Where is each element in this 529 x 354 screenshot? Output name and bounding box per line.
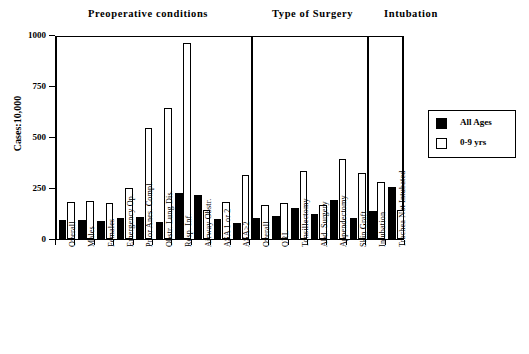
x-axis-tick-label: Abd. Surgery bbox=[320, 201, 329, 247]
x-axis-tick-label: Resp. Inf. bbox=[184, 213, 193, 247]
bar-all-ages bbox=[59, 220, 67, 239]
x-axis-tick-label: Females bbox=[107, 219, 116, 247]
legend-swatch-young-icon bbox=[436, 138, 447, 149]
x-axis-tick bbox=[55, 240, 56, 245]
bar-all-ages bbox=[291, 208, 299, 239]
y-axis-tick-label: 250 bbox=[14, 183, 46, 193]
x-axis-tick-label: Emergency Op. bbox=[126, 194, 135, 247]
x-axis-tick-label: ASA 1 or 2 bbox=[223, 208, 232, 247]
bar-all-ages bbox=[253, 218, 261, 239]
x-axis-tick-label: ASA>2 bbox=[242, 221, 251, 247]
bar-all-ages bbox=[330, 200, 338, 239]
bar-all-ages bbox=[78, 220, 86, 239]
bar-all-ages bbox=[233, 223, 241, 239]
x-axis-tick-label: Trachea Not Intubated bbox=[398, 170, 407, 247]
bar-all-ages bbox=[350, 218, 358, 239]
x-axis-tick-label: Males bbox=[87, 226, 96, 247]
section-header-surgery: Type of Surgery bbox=[272, 8, 353, 19]
bar-0-9-yrs bbox=[183, 43, 191, 239]
bar-all-ages bbox=[175, 193, 183, 240]
legend-label-all-ages: All Ages bbox=[460, 117, 492, 127]
bar-all-ages bbox=[388, 187, 396, 239]
x-axis-tick-label: Obstr. Lung Dis. bbox=[165, 190, 174, 247]
x-axis-tick-label: ORL bbox=[281, 230, 290, 247]
x-axis-tick-label: Overall bbox=[262, 221, 271, 247]
bar-all-ages bbox=[272, 216, 280, 239]
y-axis-tick-label: 0 bbox=[14, 234, 46, 244]
legend-swatch-all-ages-icon bbox=[436, 118, 447, 129]
section-header-preoperative: Preoperative conditions bbox=[88, 8, 208, 19]
legend-label-young: 0-9 yrs bbox=[460, 137, 486, 147]
x-axis-tick-label: Overall bbox=[68, 221, 77, 247]
bar-all-ages bbox=[214, 219, 222, 239]
bar-all-ages bbox=[136, 217, 144, 239]
bar-all-ages bbox=[369, 211, 377, 239]
bar-all-ages bbox=[311, 214, 319, 240]
bar-all-ages bbox=[97, 221, 105, 239]
chart-legend: All Ages 0-9 yrs bbox=[428, 110, 516, 158]
bar-all-ages bbox=[194, 195, 202, 239]
x-axis-tick-label: Airway Obstr. bbox=[204, 199, 213, 247]
x-axis-tick-label: Skin Graft bbox=[359, 211, 368, 247]
bar-all-ages bbox=[156, 222, 164, 239]
chart-figure: Preoperative conditions Type of Surgery … bbox=[0, 0, 529, 354]
group-divider bbox=[367, 37, 369, 239]
bar-all-ages bbox=[117, 218, 125, 239]
group-divider bbox=[251, 37, 253, 239]
y-axis-tick-label: 750 bbox=[14, 81, 46, 91]
section-header-intubation: Intubation bbox=[384, 8, 438, 19]
x-axis-tick-label: Tonsillectomy bbox=[301, 198, 310, 247]
x-axis-tick-label: Appendectomy bbox=[339, 195, 348, 247]
y-axis-tick-label: 1000 bbox=[14, 30, 46, 40]
x-axis-tick-label: Prior Anes. Compl. bbox=[145, 181, 154, 247]
y-axis-tick-label: 500 bbox=[14, 132, 46, 142]
x-axis-tick-label: Intubation bbox=[378, 212, 387, 247]
